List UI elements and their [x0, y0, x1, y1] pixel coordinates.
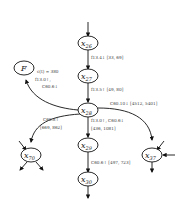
edge-label-F-1: c(t) = 380 [37, 69, 59, 74]
edge-label-x26-x27: f13.4↓ [33, 69] [91, 55, 124, 60]
out-arrow-x70-left [20, 162, 27, 170]
in-arrow-x70 [19, 141, 26, 150]
edge-label-x28-x70-1: C60.8↑ [43, 117, 59, 122]
flow-diagram: x26 x27 x28 x29 x30 x70 x37 F f13.4↓ [33… [0, 0, 190, 203]
edge-label-x28-x37: C60.10↓ [4512, 5401] [110, 101, 158, 106]
in-arrow-x37-top [157, 141, 164, 150]
node-F-label: F [20, 64, 27, 73]
edge-label-x28-x29-2: [436, 1081] [91, 126, 116, 131]
edge-label-x29-x30: C60.6↑ [497, 723] [91, 160, 131, 165]
edge-label-F-3: C60.6↓ [42, 84, 58, 89]
edge-label-x28-x29-1: f13.0↑, C60.6↓ [91, 118, 124, 123]
edge-label-F-2: f13.0↑, [35, 77, 51, 82]
edge-label-x28-x70-2: [669, 862] [40, 125, 62, 130]
out-arrow-x70-right [36, 162, 43, 170]
edge-x28-x37 [98, 108, 152, 140]
edge-label-x27-x28: f13.5↑ [49, 80] [91, 87, 124, 92]
